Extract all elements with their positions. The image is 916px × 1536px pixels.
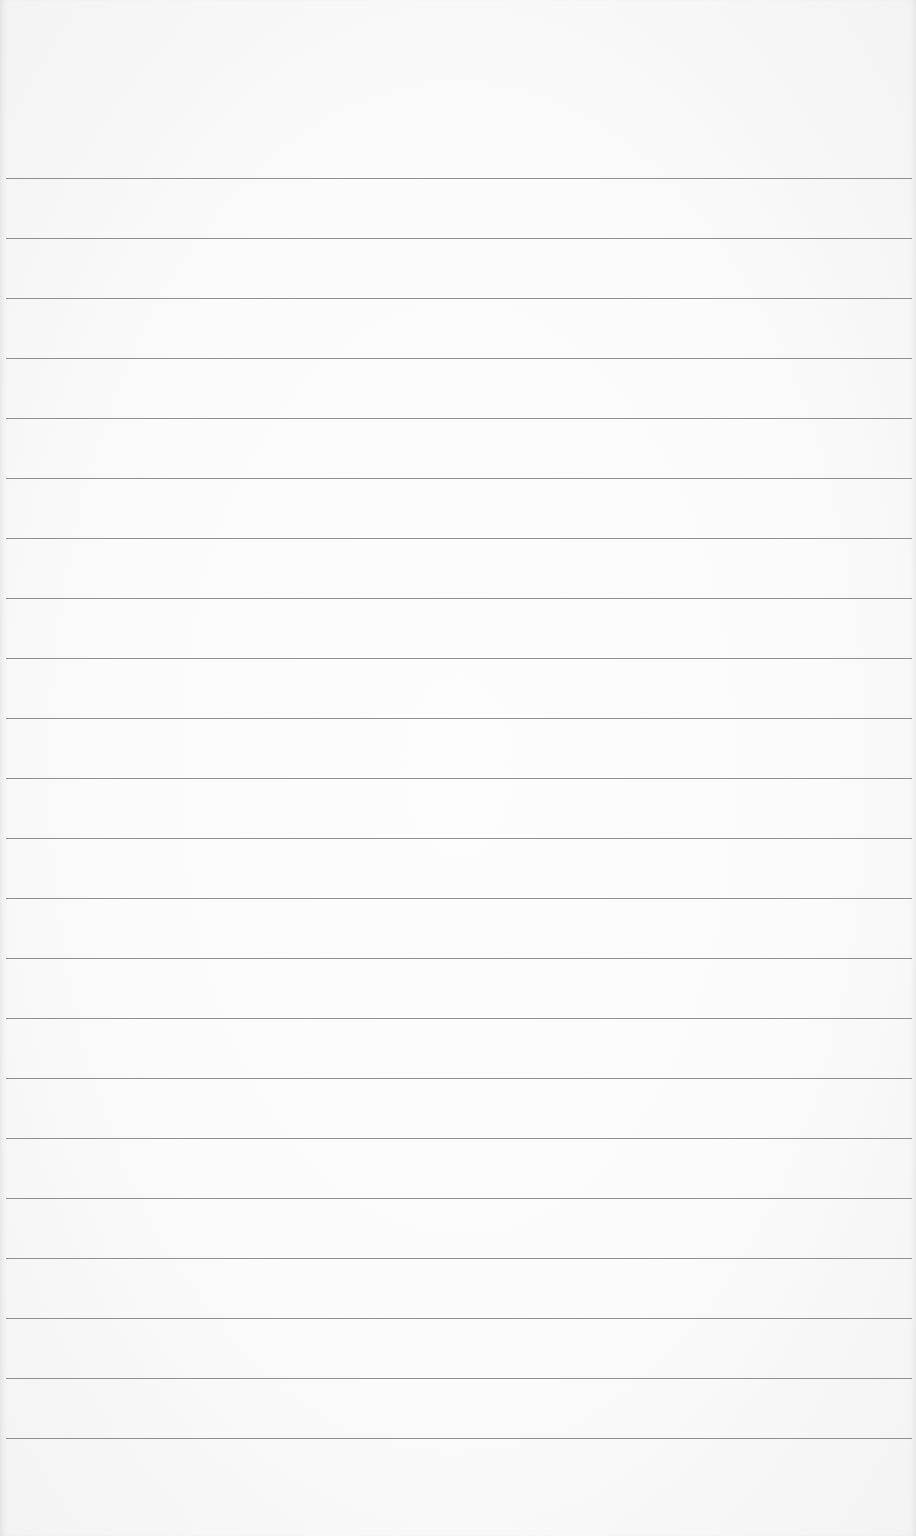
ruled-line (6, 1018, 912, 1019)
ruled-line (6, 418, 912, 419)
ruled-line (6, 298, 912, 299)
ruled-line (6, 1438, 912, 1439)
ruled-line (6, 958, 912, 959)
ruled-line (6, 718, 912, 719)
ruled-line (6, 538, 912, 539)
ruled-line (6, 238, 912, 239)
ruled-line (6, 1138, 912, 1139)
ruled-line (6, 1258, 912, 1259)
ruled-line (6, 1198, 912, 1199)
ruled-line (6, 1078, 912, 1079)
ruled-line (6, 658, 912, 659)
lined-paper-sheet (0, 0, 916, 1536)
ruled-line (6, 898, 912, 899)
ruled-line (6, 358, 912, 359)
ruled-line (6, 1318, 912, 1319)
ruled-line (6, 598, 912, 599)
ruled-line (6, 778, 912, 779)
ruled-line (6, 1378, 912, 1379)
ruled-line (6, 178, 912, 179)
ruled-line (6, 838, 912, 839)
ruled-line (6, 478, 912, 479)
